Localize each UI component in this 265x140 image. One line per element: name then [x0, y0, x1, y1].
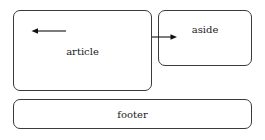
- article-left-arrow-icon: [30, 26, 70, 36]
- layout-diagram: article aside footer: [0, 0, 265, 140]
- article-box-label: article: [13, 47, 152, 57]
- aside-right-arrow-icon: [151, 32, 181, 42]
- footer-box-label: footer: [13, 110, 252, 120]
